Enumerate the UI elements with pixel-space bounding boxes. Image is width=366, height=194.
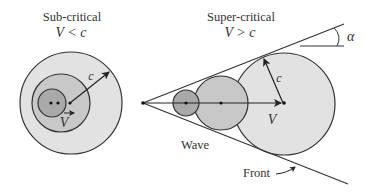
angle-alpha-label: α bbox=[347, 29, 355, 44]
supercritical-panel: Super-critical V > c c V α Wave Front bbox=[141, 10, 355, 184]
source-point-1 bbox=[49, 101, 52, 104]
wave-label: Wave bbox=[181, 138, 210, 152]
supercritical-condition: V > c bbox=[225, 25, 257, 40]
front-label: Front bbox=[243, 166, 271, 180]
subcritical-v-label: V bbox=[60, 115, 70, 130]
small-wave-center bbox=[184, 101, 187, 104]
medium-wave-center bbox=[219, 101, 222, 104]
supercritical-title: Super-critical bbox=[207, 10, 275, 24]
source-point-2 bbox=[56, 101, 59, 104]
subcritical-title: Sub-critical bbox=[43, 10, 102, 24]
supercritical-c-label: c bbox=[276, 71, 282, 85]
angle-arc bbox=[334, 28, 339, 46]
subcritical-condition: V < c bbox=[56, 25, 88, 40]
front-pointer-arrow bbox=[276, 167, 295, 174]
apex-point bbox=[141, 101, 145, 105]
subcritical-c-label: c bbox=[88, 69, 94, 83]
supercritical-v-label: V bbox=[268, 112, 278, 127]
wave-front-diagram: Sub-critical V < c c V Super-critical V … bbox=[0, 0, 366, 194]
subcritical-panel: Sub-critical V < c c V bbox=[20, 10, 122, 154]
